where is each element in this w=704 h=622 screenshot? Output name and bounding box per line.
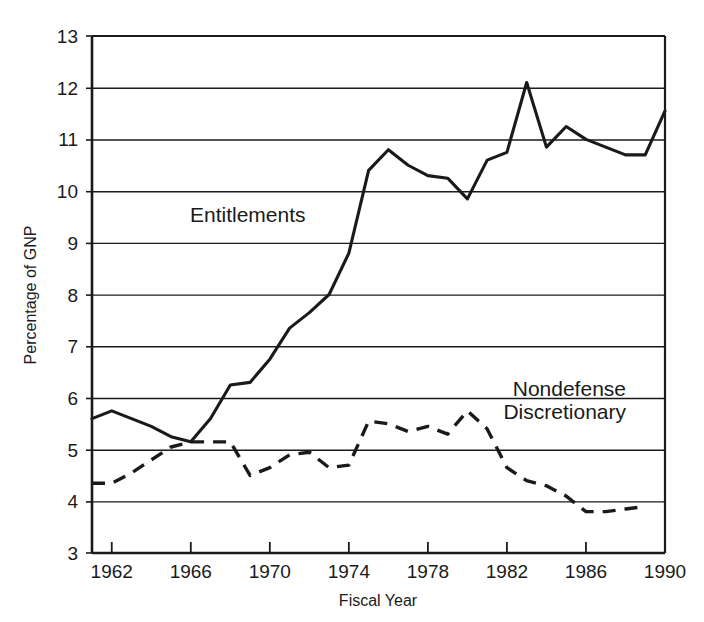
y-axis-tick-labels: 345678910111213 bbox=[57, 26, 79, 564]
y-tick-label-8: 8 bbox=[67, 285, 78, 306]
y-tick-label-9: 9 bbox=[67, 233, 78, 254]
y-axis-title: Percentage of GNP bbox=[22, 226, 39, 365]
x-tick-label-1962: 1962 bbox=[91, 561, 133, 582]
y-tick-label-5: 5 bbox=[67, 440, 78, 461]
series-label-nondefense: Nondefense bbox=[513, 377, 626, 400]
x-tick-label-1974: 1974 bbox=[328, 561, 371, 582]
y-tick-label-7: 7 bbox=[67, 336, 78, 357]
x-axis-tick-labels: 19621966197019741978198219861990 bbox=[91, 561, 687, 582]
y-tick-label-13: 13 bbox=[57, 26, 78, 47]
series-label-discretionary: Discretionary bbox=[503, 400, 626, 423]
y-tick-label-11: 11 bbox=[58, 129, 78, 150]
line-chart: 345678910111213 196219661970197419781982… bbox=[0, 0, 704, 622]
series-label-entitlements: Entitlements bbox=[190, 203, 306, 226]
y-tick-label-12: 12 bbox=[57, 78, 78, 99]
y-tick-label-3: 3 bbox=[67, 543, 78, 564]
chart-container: 345678910111213 196219661970197419781982… bbox=[0, 0, 704, 622]
x-tick-label-1986: 1986 bbox=[565, 561, 607, 582]
x-tick-label-1970: 1970 bbox=[249, 561, 291, 582]
x-axis-title: Fiscal Year bbox=[339, 592, 418, 609]
y-tick-label-6: 6 bbox=[67, 388, 78, 409]
x-tick-label-1966: 1966 bbox=[170, 561, 212, 582]
x-tick-label-1982: 1982 bbox=[486, 561, 528, 582]
x-tick-label-1978: 1978 bbox=[407, 561, 449, 582]
y-tick-label-4: 4 bbox=[67, 491, 78, 512]
y-tick-label-10: 10 bbox=[57, 181, 78, 202]
x-tick-label-1990: 1990 bbox=[644, 561, 686, 582]
